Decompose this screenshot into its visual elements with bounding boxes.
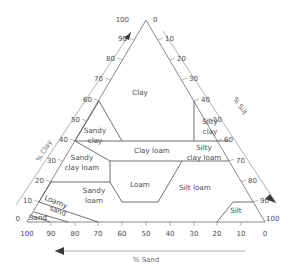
class-label-sand: Sand — [29, 213, 47, 222]
class-label-clay: Clay — [132, 88, 148, 97]
clay-tick-90: 90 — [118, 35, 127, 43]
soil-texture-triangle-chart: 100 90 80 70 60 50 40 30 20 10 0 0 10 20… — [0, 0, 292, 274]
clay-tick-70: 70 — [94, 75, 103, 83]
silt-tick-80: 80 — [248, 177, 257, 185]
class-label-sandy-loam-line1: Sandy — [83, 186, 106, 195]
clay-tick-0: 0 — [16, 215, 20, 223]
sand-axis-ticks — [51, 222, 241, 226]
sand-tick-60: 60 — [118, 230, 127, 238]
sand-tick-70: 70 — [94, 230, 103, 238]
class-label-clay-loam: Clay loam — [134, 146, 170, 155]
sand-tick-labels: 100 90 80 70 60 50 40 30 20 10 0 — [20, 230, 267, 238]
class-label-silty-clay-line2: clay — [203, 127, 218, 136]
clay-tick-50: 50 — [71, 116, 80, 124]
clay-tick-40: 40 — [59, 136, 68, 144]
clay-tick-80: 80 — [106, 55, 115, 63]
sand-tick-20: 20 — [213, 230, 222, 238]
class-label-sandy-clay-loam-line1: Sandy — [71, 153, 94, 162]
silt-tick-10: 10 — [165, 35, 174, 43]
silt-tick-90: 90 — [260, 197, 269, 205]
silt-tick-60: 60 — [224, 136, 233, 144]
class-label-sandy-clay-line2: clay — [88, 136, 103, 145]
silt-tick-30: 30 — [189, 75, 198, 83]
sand-tick-50: 50 — [142, 230, 151, 238]
sand-tick-90: 90 — [47, 230, 56, 238]
class-label-silty-clay-loam-line2: clay loam — [187, 153, 222, 162]
sand-tick-80: 80 — [71, 230, 80, 238]
outer-axis-sand — [55, 247, 245, 255]
class-label-silty-clay-loam-line1: Silty — [196, 143, 212, 152]
sand-tick-100: 100 — [20, 230, 33, 238]
clay-tick-60: 60 — [83, 96, 92, 104]
class-label-loam: Loam — [130, 180, 150, 189]
silt-axis-title: % Silt — [231, 95, 249, 116]
silt-tick-40: 40 — [201, 96, 210, 104]
sand-axis-title: % Sand — [133, 256, 160, 264]
sand-tick-10: 10 — [237, 230, 246, 238]
clay-tick-10: 10 — [23, 197, 32, 205]
class-label-silt-loam: Silt loam — [179, 183, 210, 192]
class-label-sandy-loam-line2: loam — [85, 196, 103, 205]
clay-tick-30: 30 — [47, 157, 56, 165]
sand-tick-0: 0 — [263, 230, 267, 238]
sand-tick-40: 40 — [166, 230, 175, 238]
triangle-svg: 100 90 80 70 60 50 40 30 20 10 0 0 10 20… — [0, 0, 292, 274]
class-label-silty-clay-line1: Silty — [202, 117, 218, 126]
clay-tick-100: 100 — [116, 16, 129, 24]
clay-tick-20: 20 — [35, 177, 44, 185]
clay-axis-ticks — [34, 38, 134, 202]
silt-tick-100: 100 — [266, 215, 279, 223]
triangle-outline — [27, 20, 265, 222]
silt-tick-70: 70 — [236, 157, 245, 165]
sand-tick-30: 30 — [190, 230, 199, 238]
class-label-silt: Silt — [230, 206, 242, 215]
clay-tick-labels: 100 90 80 70 60 50 40 30 20 10 0 — [16, 16, 129, 223]
silt-tick-0: 0 — [153, 16, 157, 24]
silt-tick-20: 20 — [177, 55, 186, 63]
class-label-sandy-clay-line1: Sandy — [84, 126, 107, 135]
class-label-sandy-clay-loam-line2: clay loam — [65, 163, 100, 172]
